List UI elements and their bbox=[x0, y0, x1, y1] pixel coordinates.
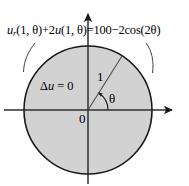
right-leader-line bbox=[146, 43, 153, 73]
angle-theta-label: θ bbox=[109, 92, 115, 105]
equation-close-second: )=100−2cos(2 bbox=[83, 23, 151, 37]
equation-close-third: ) bbox=[156, 23, 160, 37]
origin-label: 0 bbox=[79, 112, 86, 125]
equation-close-first: )+2 bbox=[38, 23, 55, 37]
radius-length-label: 1 bbox=[97, 70, 104, 83]
left-leader-line bbox=[24, 43, 36, 72]
equation-args-second: (1, bbox=[61, 23, 77, 37]
boundary-condition-equation: ur(1, θ)+2u(1, θ)=100−2cos(2θ) bbox=[7, 24, 160, 39]
equation-args-first: (1, bbox=[16, 23, 32, 37]
math-figure: ur(1, θ)+2u(1, θ)=100−2cos(2θ) Δu = 0 1 … bbox=[0, 0, 189, 186]
laplace-equals-zero: = 0 bbox=[54, 79, 73, 93]
laplace-delta-symbol: Δ bbox=[40, 79, 48, 93]
laplace-equation-label: Δu = 0 bbox=[40, 80, 74, 92]
